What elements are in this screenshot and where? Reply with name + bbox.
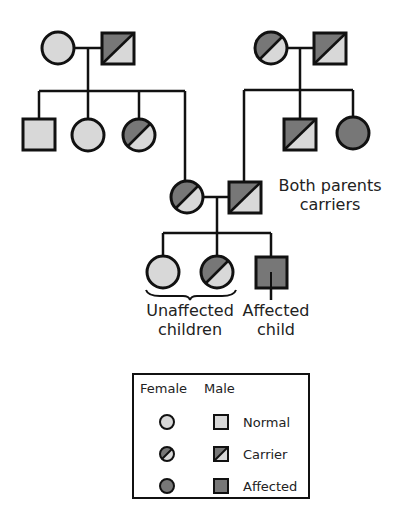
parent-male-carrier (229, 182, 261, 213)
annotation-line-2: child (236, 320, 316, 339)
child-female-carrier (200, 255, 234, 289)
gen2-right-female-affected (337, 117, 369, 149)
annotation-line-2: children (140, 320, 240, 339)
gen1-right-male-carrier (314, 33, 346, 64)
annotation-both-parents-carriers: Both parents carriers (270, 176, 390, 214)
annotation-line-2: carriers (270, 195, 390, 214)
child-female-normal (147, 256, 179, 288)
legend-header-female: Female (140, 381, 187, 396)
legend-label-carrier: Carrier (243, 447, 287, 462)
gen1-right-female-carrier (254, 31, 288, 65)
parent-female-carrier (170, 180, 204, 214)
legend-label-normal: Normal (243, 415, 290, 430)
child-male-affected (256, 257, 287, 288)
gen2-right-male-carrier (284, 119, 316, 150)
annotation-affected-child: Affected child (236, 301, 316, 339)
gen1-left-male-carrier (102, 33, 134, 64)
gen2-female-carrier (122, 118, 156, 152)
legend-header-male: Male (204, 381, 235, 396)
annotation-line-1: Both parents (270, 176, 390, 195)
legend-box: Female Male Normal Carrier Affected (132, 373, 310, 499)
annotation-unaffected-children: Unaffected children (140, 301, 240, 339)
gen2-female-normal (72, 119, 104, 151)
legend-label-affected: Affected (243, 479, 297, 494)
annotation-line-1: Affected (236, 301, 316, 320)
gen2-male-normal (23, 119, 55, 150)
gen1-left-female-normal (42, 32, 74, 64)
annotation-line-1: Unaffected (140, 301, 240, 320)
